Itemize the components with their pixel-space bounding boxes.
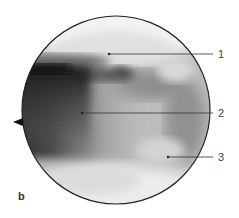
endoscopic-figure (0, 0, 239, 218)
label-2: 2 (218, 108, 224, 119)
scope-image (0, 0, 239, 218)
label-1: 1 (218, 49, 224, 60)
panel-label: b (18, 190, 25, 202)
label-3: 3 (218, 152, 224, 163)
orientation-notch-icon (13, 118, 23, 126)
